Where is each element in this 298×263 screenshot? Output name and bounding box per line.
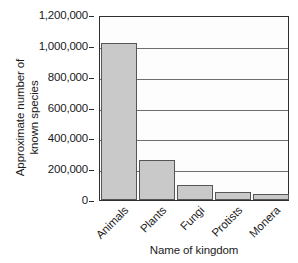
bar-series [100,17,288,200]
x-axis-tick-label: Protists [199,204,244,249]
y-axis-tick-label: 400,000 [48,133,88,145]
y-axis-tick-mark [89,47,94,48]
y-axis-tick-mark [89,78,94,79]
bar [177,185,213,200]
x-axis-title: Name of kingdom [99,244,289,257]
y-axis-tick-label: 1,200,000 [39,10,88,22]
y-axis-tick-mark [89,170,94,171]
plot-area [99,16,289,201]
y-axis-tick-label: 600,000 [48,103,88,115]
y-axis-tick-mark [89,16,94,17]
y-axis-tick-mark [89,109,94,110]
bar [215,192,251,200]
y-axis-tick-labels: 0200,000400,000600,000800,0001,000,0001,… [24,0,94,263]
bar [101,43,137,200]
bar [253,194,289,200]
y-axis-tick-label: 800,000 [48,72,88,84]
y-axis-tick-label: 1,000,000 [39,41,88,53]
y-axis-tick-mark [89,201,94,202]
x-axis-tick-label: Monera [237,204,282,249]
bar-chart-figure: Approximate number of known species 0200… [0,0,298,263]
y-axis-tick-label: 200,000 [48,164,88,176]
y-axis-tick-label: 0 [82,195,88,207]
y-axis-tick-mark [89,139,94,140]
x-axis-tick-labels: AnimalsPlantsFungiProtistsMonera [99,201,289,243]
bar [139,160,175,200]
x-axis-tick-label: Plants [123,204,168,249]
x-axis-tick-label: Fungi [161,204,206,249]
